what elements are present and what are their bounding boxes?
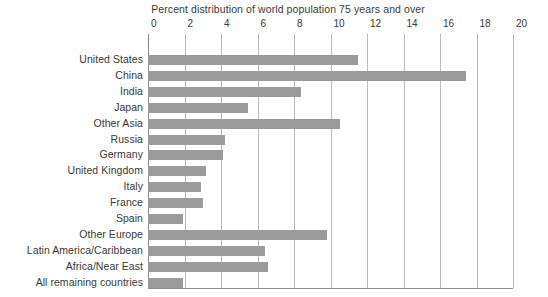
x-tick-label-10: 10	[331, 18, 345, 30]
bar-row	[148, 275, 513, 291]
bar	[148, 166, 206, 176]
bar	[148, 119, 340, 129]
plot-area: 02468101214161820	[148, 34, 513, 288]
bar-row	[148, 100, 513, 116]
bar-row	[148, 116, 513, 132]
category-label: Russia	[111, 132, 143, 148]
bar	[148, 55, 358, 65]
bar	[148, 278, 183, 288]
x-tick-label-6: 6	[258, 18, 267, 30]
bar	[148, 103, 248, 113]
category-label: China	[115, 68, 143, 84]
category-axis-labels: United StatesChinaIndiaJapanOther AsiaRu…	[0, 34, 143, 288]
category-label: Japan	[114, 100, 143, 116]
category-label: Other Asia	[93, 116, 143, 132]
bar	[148, 214, 183, 224]
chart-title: Percent distribution of world population…	[0, 3, 548, 16]
x-tick-label-4: 4	[221, 18, 230, 30]
category-label: United States	[79, 52, 143, 68]
category-label: United Kingdom	[68, 163, 143, 179]
x-tick-label-18: 18	[477, 18, 491, 30]
category-label: Other Europe	[79, 227, 143, 243]
bar-row	[148, 147, 513, 163]
bar	[148, 246, 265, 256]
bar	[148, 262, 268, 272]
x-tick-label-8: 8	[294, 18, 303, 30]
bar	[148, 198, 203, 208]
x-tick-label-12: 12	[367, 18, 381, 30]
bar	[148, 135, 225, 145]
category-label: India	[120, 84, 143, 100]
bar-row	[148, 259, 513, 275]
bar	[148, 71, 466, 81]
bar-row	[148, 211, 513, 227]
bar-row	[148, 68, 513, 84]
category-label: Germany	[99, 147, 143, 163]
bar-row	[148, 84, 513, 100]
bar-chart: Percent distribution of world population…	[0, 0, 548, 297]
bar	[148, 87, 301, 97]
bar	[148, 182, 201, 192]
bar	[148, 230, 327, 240]
x-tick-label-14: 14	[404, 18, 418, 30]
bar-row	[148, 132, 513, 148]
category-label: Africa/Near East	[66, 259, 143, 275]
category-label: Italy	[123, 179, 143, 195]
category-label: France	[110, 195, 143, 211]
x-tick-label-0: 0	[148, 18, 157, 30]
category-label: All remaining countries	[36, 275, 143, 291]
bar-row	[148, 179, 513, 195]
bar-row	[148, 163, 513, 179]
bar-row	[148, 243, 513, 259]
bar-row	[148, 195, 513, 211]
gridline-20	[513, 34, 514, 288]
x-tick-label-20: 20	[513, 18, 527, 30]
category-label: Latin America/Caribbean	[27, 243, 143, 259]
bar-row	[148, 52, 513, 68]
bar-row	[148, 227, 513, 243]
x-tick-label-2: 2	[185, 18, 194, 30]
bar	[148, 150, 223, 160]
x-tick-label-16: 16	[440, 18, 454, 30]
category-label: Spain	[116, 211, 143, 227]
